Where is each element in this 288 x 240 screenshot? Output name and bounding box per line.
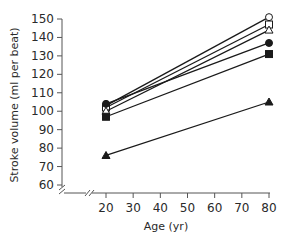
y-tick-label: 120: [31, 67, 54, 81]
x-tick-label: 50: [180, 201, 195, 215]
series-line: [106, 43, 269, 104]
square-marker-icon: [103, 113, 110, 120]
triangle-marker-icon: [265, 98, 273, 105]
y-tick-label: 150: [31, 12, 54, 26]
series-line: [106, 17, 269, 106]
y-tick-label: 90: [39, 123, 54, 137]
y-tick-label: 70: [39, 160, 54, 174]
x-axis-label: Age (yr): [144, 220, 188, 233]
x-tick-label: 70: [234, 201, 249, 215]
y-tick-label: 110: [31, 86, 54, 100]
series-triangle-open: [102, 26, 273, 114]
circle-marker-icon: [266, 14, 273, 21]
stroke-volume-chart: 6070809010011012013014015020304050607080…: [0, 0, 288, 240]
series-triangle-filled: [102, 98, 273, 158]
chart-canvas: 6070809010011012013014015020304050607080…: [0, 0, 288, 240]
y-tick-label: 130: [31, 49, 54, 63]
y-tick-label: 80: [39, 141, 54, 155]
series-circle-filled: [103, 39, 273, 107]
data-series: [102, 14, 273, 159]
x-tick-label: 40: [153, 201, 168, 215]
tick-labels: 6070809010011012013014015020304050607080: [31, 12, 277, 215]
x-tick-label: 20: [98, 201, 113, 215]
square-marker-icon: [266, 51, 273, 58]
y-tick-label: 60: [39, 178, 54, 192]
x-tick-label: 30: [126, 201, 141, 215]
series-line: [106, 54, 269, 117]
x-tick-label: 80: [261, 201, 276, 215]
series-circle-open: [103, 14, 273, 110]
series-line: [106, 30, 269, 111]
circle-marker-icon: [103, 100, 110, 107]
y-tick-label: 100: [31, 104, 54, 118]
series-square-open: [103, 21, 273, 111]
y-tick-label: 140: [31, 30, 54, 44]
series-line: [106, 102, 269, 155]
y-axis-label: Stroke volume (ml per beat): [8, 27, 21, 182]
x-tick-label: 60: [207, 201, 222, 215]
circle-marker-icon: [266, 39, 273, 46]
